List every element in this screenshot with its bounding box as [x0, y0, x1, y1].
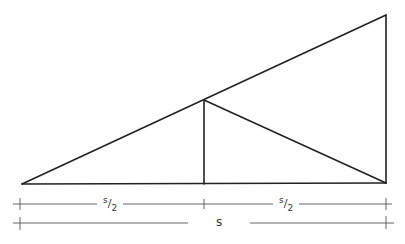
full-length-label: s [216, 215, 222, 229]
denominator: 2 [111, 203, 117, 213]
diagram-canvas: s/2 s/2 s [0, 0, 405, 244]
diagonal-to-corner [204, 100, 386, 183]
denominator: 2 [287, 203, 293, 213]
dim-label-full: s [188, 216, 250, 228]
numerator: s [279, 195, 284, 205]
numerator: s [103, 195, 108, 205]
dim-label-left-half: s/2 [97, 196, 123, 213]
dim-label-right-half: s/2 [273, 196, 299, 213]
triangle-figure [0, 0, 405, 244]
